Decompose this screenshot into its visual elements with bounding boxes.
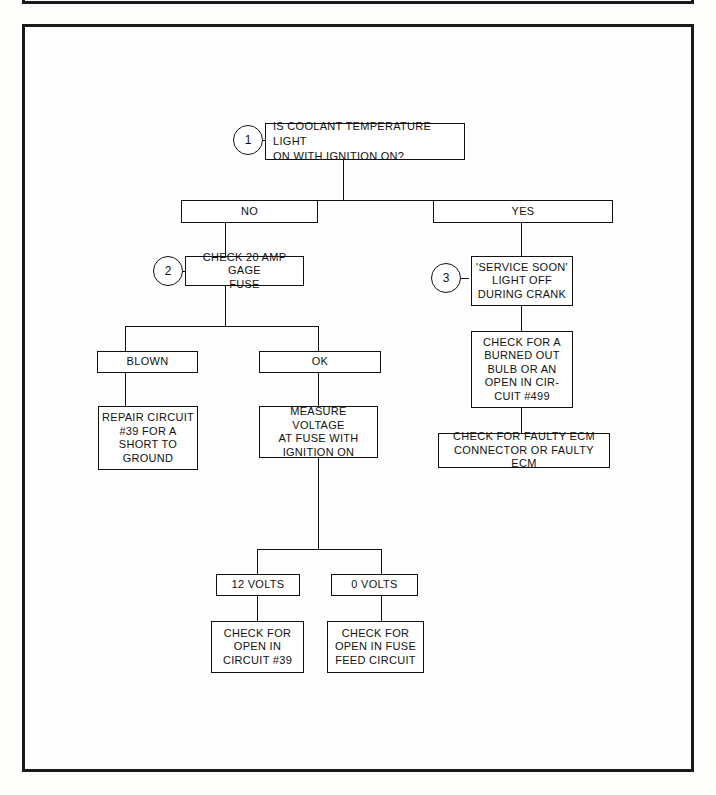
- connector-step3-leader: [461, 278, 469, 279]
- connector-12volts-to-open39: [257, 596, 258, 621]
- connector-split-blown-ok: [125, 326, 318, 327]
- node-check-faulty-ecm[interactable]: CHECK FOR FAULTY ECM CONNECTOR OR FAULTY…: [438, 433, 610, 468]
- step-marker-1: 1: [233, 125, 263, 155]
- connector-yes-to-servicesoon: [521, 223, 522, 256]
- node-answer-yes[interactable]: YES: [433, 200, 613, 223]
- connector-checkfuse-down: [225, 286, 226, 326]
- node-question-coolant-light[interactable]: IS COOLANT TEMPERATURE LIGHT ON WITH IGN…: [265, 123, 465, 160]
- node-12-volts[interactable]: 12 VOLTS: [216, 574, 300, 596]
- node-service-soon-light-off[interactable]: 'SERVICE SOON' LIGHT OFF DURING CRANK: [471, 256, 573, 306]
- node-answer-no[interactable]: NO: [181, 200, 318, 223]
- node-fuse-ok[interactable]: OK: [259, 351, 381, 373]
- node-0-volts[interactable]: 0 VOLTS: [331, 574, 418, 596]
- page-canvas: 1 IS COOLANT TEMPERATURE LIGHT ON WITH I…: [0, 0, 716, 795]
- node-fuse-blown[interactable]: BLOWN: [97, 351, 198, 373]
- node-check-open-circuit-39[interactable]: CHECK FOR OPEN IN CIRCUIT #39: [211, 621, 304, 673]
- connector-blown-to-repair: [125, 373, 126, 406]
- connector-0volts-to-openfeed: [381, 596, 382, 621]
- node-measure-voltage-at-fuse[interactable]: MEASURE VOLTAGE AT FUSE WITH IGNITION ON: [259, 406, 378, 458]
- connector-servicesoon-to-bulb: [521, 306, 522, 331]
- connector-bulb-to-ecm: [521, 408, 522, 433]
- connector-split-volts: [257, 549, 381, 550]
- step-marker-3: 3: [431, 263, 461, 293]
- connector-measure-down: [318, 458, 319, 549]
- node-repair-circuit-39[interactable]: REPAIR CIRCUIT #39 FOR A SHORT TO GROUND: [98, 406, 198, 470]
- connector-to-blown: [125, 326, 126, 351]
- connector-to-12volts: [257, 549, 258, 574]
- node-check-burned-out-bulb[interactable]: CHECK FOR A BURNED OUT BULB OR AN OPEN I…: [471, 331, 573, 408]
- previous-page-frame-edge: [22, 0, 694, 4]
- flowchart-frame: 1 IS COOLANT TEMPERATURE LIGHT ON WITH I…: [22, 24, 694, 772]
- connector-q1-down: [343, 160, 344, 200]
- connector-ok-to-measure: [318, 373, 319, 406]
- node-check-open-fuse-feed[interactable]: CHECK FOR OPEN IN FUSE FEED CIRCUIT: [327, 621, 424, 673]
- connector-to-0volts: [381, 549, 382, 574]
- connector-to-ok: [318, 326, 319, 351]
- step-marker-2: 2: [153, 256, 183, 286]
- node-check-20-amp-gage-fuse[interactable]: CHECK 20 AMP GAGE FUSE: [185, 256, 304, 286]
